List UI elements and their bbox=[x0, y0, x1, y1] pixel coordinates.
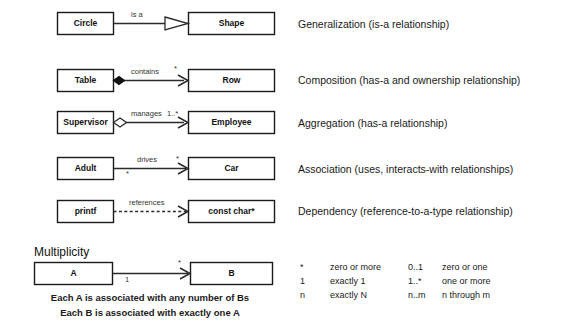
class-box-row-label: Row bbox=[188, 76, 275, 85]
multiplicity-caption-line-2: Each B is associated with exactly one A bbox=[0, 308, 300, 318]
multiplicity-section-title: Multiplicity bbox=[34, 246, 89, 258]
edge-label-is-a: is a bbox=[131, 11, 143, 19]
legend-meaning-zero-or-more: zero or more bbox=[330, 263, 408, 272]
legend-symbol-star: * bbox=[300, 263, 330, 272]
legend-meaning-exactly-1: exactly 1 bbox=[330, 277, 408, 286]
multiplicity-marker-car-target: * bbox=[176, 155, 179, 163]
legend-symbol-n-through-m: n..m bbox=[408, 291, 442, 300]
multiplicity-marker-a-source: 1 bbox=[125, 276, 129, 284]
class-box-shape-label: Shape bbox=[188, 19, 275, 28]
uml-relationship-diagram: Circle Shape Table Row Supervisor Employ… bbox=[0, 0, 565, 334]
edge-label-references: references bbox=[129, 199, 164, 207]
multiplicity-marker-employee-target: 1..* bbox=[167, 110, 178, 118]
edge-label-manages: manages bbox=[131, 110, 162, 118]
class-box-adult-label: Adult bbox=[57, 164, 114, 173]
legend-meaning-zero-or-one: zero or one bbox=[442, 263, 491, 272]
legend-symbol-n: n bbox=[300, 291, 330, 300]
description-generalization: Generalization (is-a relationship) bbox=[298, 19, 449, 30]
description-composition: Composition (has-a and ownership relatio… bbox=[298, 75, 520, 86]
edge-label-drives: drives bbox=[137, 156, 157, 164]
multiplicity-marker-adult-source: * bbox=[126, 170, 129, 178]
class-box-b-label: B bbox=[190, 269, 273, 278]
description-dependency: Dependency (reference-to-a-type relation… bbox=[298, 206, 513, 217]
legend-symbol-zero-one: 0..1 bbox=[408, 263, 442, 272]
class-box-supervisor-label: Supervisor bbox=[57, 118, 114, 127]
legend-meaning-exactly-n: exactly N bbox=[330, 291, 408, 300]
legend-symbol-one-or-more: 1..* bbox=[408, 277, 442, 286]
class-box-employee-label: Employee bbox=[188, 118, 275, 127]
description-aggregation: Aggregation (has-a relationship) bbox=[298, 118, 447, 129]
edge-label-contains: contains bbox=[131, 68, 159, 76]
legend-symbol-one: 1 bbox=[300, 277, 330, 286]
multiplicity-marker-b-target: * bbox=[178, 259, 181, 267]
hollow-diamond-icon bbox=[114, 118, 127, 127]
description-association: Association (uses, interacts-with relati… bbox=[298, 164, 513, 175]
multiplicity-marker-row-target: * bbox=[174, 65, 177, 73]
legend-meaning-one-or-more: one or more bbox=[442, 277, 491, 286]
multiplicity-legend: * zero or more 0..1 zero or one 1 exactl… bbox=[300, 263, 491, 300]
filled-diamond-icon bbox=[114, 77, 125, 85]
class-box-table-label: Table bbox=[57, 76, 114, 85]
class-box-circle-label: Circle bbox=[57, 19, 114, 28]
class-box-printf-label: printf bbox=[57, 207, 114, 216]
class-box-a-label: A bbox=[34, 269, 113, 278]
multiplicity-caption-line-1: Each A is associated with any number of … bbox=[0, 293, 300, 303]
hollow-triangle-arrowhead-icon bbox=[165, 17, 188, 30]
legend-meaning-n-through-m: n through m bbox=[442, 291, 491, 300]
class-box-car-label: Car bbox=[188, 164, 275, 173]
class-box-const-char-label: const char* bbox=[188, 207, 275, 216]
